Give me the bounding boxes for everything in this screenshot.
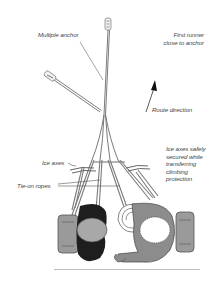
- left-climber-helmet: [77, 218, 107, 242]
- label-ice-axes-secured-line-4: climbing: [166, 168, 205, 176]
- label-ice-axes-secured-line-1: Ice axes safely: [166, 145, 205, 153]
- ice-screw-top: [105, 18, 111, 30]
- label-tie-on-ropes: Tie-on ropes: [17, 182, 50, 190]
- right-climber-pack: [176, 212, 194, 252]
- label-first-runner-line-1: First runner: [164, 31, 204, 39]
- label-ice-axes-secured-line-2: secured while: [166, 153, 205, 161]
- label-ice-axes-secured-line-5: protection: [166, 175, 205, 183]
- multiple-anchor-leader: [80, 42, 103, 80]
- climber-left: [58, 204, 107, 261]
- label-first-runner-line-2: close to anchor: [164, 39, 204, 47]
- label-ice-axes-secured: Ice axes safely secured while transferri…: [166, 145, 205, 183]
- bottom-divider: [54, 269, 200, 270]
- left-climber-pack: [58, 215, 78, 253]
- label-first-runner: First runner close to anchor: [164, 31, 204, 46]
- climber-right: [114, 203, 194, 262]
- anchor-slings: [54, 30, 118, 160]
- label-multiple-anchor: Multiple anchor: [38, 31, 78, 39]
- right-climber-helmet: [140, 217, 170, 243]
- label-route-direction: Route direction: [152, 106, 192, 114]
- label-ice-axes-secured-line-3: transferring: [166, 160, 205, 168]
- label-ice-axes: Ice axes: [42, 159, 64, 167]
